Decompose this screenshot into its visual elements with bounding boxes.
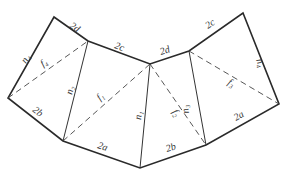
label-f2: f₂ bbox=[170, 107, 183, 119]
label-f3: f₃ bbox=[226, 76, 237, 89]
label-2a-right: 2a bbox=[232, 108, 246, 123]
label-f4: f₄ bbox=[38, 56, 50, 69]
label-n1: n₁ bbox=[132, 111, 144, 121]
label-n4-right: n₄ bbox=[254, 57, 268, 69]
label-n2: n₂ bbox=[63, 84, 76, 95]
label-f1: f₁ bbox=[94, 90, 106, 102]
outer-boundary bbox=[8, 13, 279, 168]
label-n4-left: n₄ bbox=[18, 52, 32, 65]
edge-f2 bbox=[150, 64, 206, 145]
label-2d-top-mid: 2d bbox=[158, 43, 172, 57]
label-2c-top-right: 2c bbox=[203, 16, 218, 31]
label-2a-bottom-left: 2a bbox=[96, 139, 109, 153]
edge-f1 bbox=[63, 64, 150, 141]
label-2d-top-left: 2d bbox=[68, 20, 83, 35]
edge-n3 bbox=[189, 51, 206, 145]
triangulated-net-diagram: n₄ 2d 2c 2d 2c n₄ 2a 2b 2a 2b n₂ n₁ n₃ f… bbox=[0, 0, 291, 185]
label-2b-bottom-right: 2b bbox=[164, 140, 177, 154]
